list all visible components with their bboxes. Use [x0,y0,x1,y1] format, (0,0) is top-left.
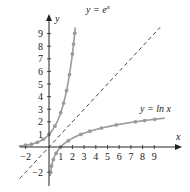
exp-curve [19,27,76,146]
exp-data-point [71,52,75,56]
exp-data-point [73,31,77,35]
y-tick-label: 5 [38,79,43,90]
exp-data-point [68,73,72,77]
exp-data-point [65,89,69,93]
ln-data-point [100,126,104,130]
x-tick-label: 2 [70,151,75,162]
x-tick-label: 4 [93,151,98,162]
ln-data-point [79,133,83,137]
ln-curve-label: y = ln x [139,103,171,114]
y-axis-arrow-icon [46,14,52,21]
ln-data-point [50,164,54,168]
y-tick-label: 6 [38,66,43,77]
ln-data-point [66,139,70,143]
x-axis-arrow-icon [175,144,182,150]
ln-data-point [143,119,147,123]
exp-data-point [62,101,66,105]
ln-data-point [134,120,138,124]
x-tick-label: 7 [128,151,133,162]
exp-data-point [59,111,63,115]
y-tick-label: 2 [38,116,43,127]
axes: x y [20,13,182,186]
x-tick-label: 6 [117,151,122,162]
exp-data-point [30,142,34,146]
y-tick-label: 4 [38,91,43,102]
y-tick-label: 1 [38,129,43,140]
x-tick-label: 5 [105,151,110,162]
y-tick-label: 3 [38,104,43,115]
ln-data-point [51,158,55,162]
x-tick-label: −2 [20,151,31,162]
function-graph: x y −2123456789−2123456789 y = ex y = ln… [0,0,190,192]
x-tick-label: 1 [58,151,63,162]
exp-data-point [53,124,57,128]
y-tick-label: 8 [38,41,43,52]
exp-data-point [35,140,39,144]
y-tick-label: 9 [38,28,43,39]
ln-data-point [88,129,92,133]
y-axis-label: y [54,13,60,24]
y-tick-label: 7 [38,53,43,64]
ln-data-point [114,123,118,127]
x-tick-label: 3 [82,151,87,162]
y-tick-label: −2 [32,167,43,178]
x-tick-label: 9 [152,151,157,162]
x-axis-label: x [175,131,181,142]
exp-data-point [72,42,76,46]
exp-curve-label: y = ex [85,3,111,15]
ln-data-point [153,117,157,121]
x-tick-label: 8 [140,151,145,162]
